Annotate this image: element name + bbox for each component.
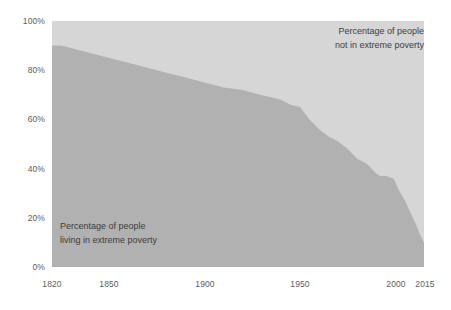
upper-area-annotation: Percentage of people not in extreme pove…: [335, 24, 424, 52]
lower-area-annotation-line2: living in extreme poverty: [60, 233, 157, 247]
lower-area-annotation-line1: Percentage of people: [60, 219, 157, 233]
x-tick-label-2015: 2015: [415, 279, 434, 289]
upper-area-annotation-line2: not in extreme poverty: [335, 38, 424, 52]
lower-area-annotation: Percentage of people living in extreme p…: [60, 219, 157, 247]
x-tick-label-1820: 1820: [42, 279, 61, 289]
x-tick-label-1850: 1850: [99, 279, 118, 289]
upper-area-annotation-line1: Percentage of people: [335, 24, 424, 38]
y-tick-label-0: 0%: [0, 262, 45, 272]
x-tick-label-2000: 2000: [386, 279, 405, 289]
y-tick-label-80: 80%: [0, 65, 45, 75]
y-tick-label-20: 20%: [0, 213, 45, 223]
y-tick-label-60: 60%: [0, 114, 45, 124]
x-tick-label-1950: 1950: [290, 279, 309, 289]
y-tick-label-100: 100%: [0, 16, 45, 26]
poverty-area-chart: 100% 80% 60% 40% 20% 0% 1820 1850 1900 1…: [0, 0, 451, 310]
y-tick-label-40: 40%: [0, 164, 45, 174]
x-tick-label-1900: 1900: [195, 279, 214, 289]
